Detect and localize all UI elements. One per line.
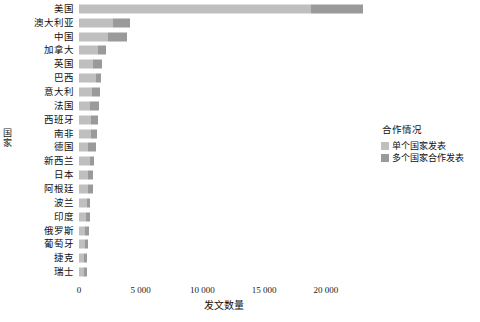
category-label: 法国 bbox=[54, 100, 74, 111]
category-label: 德国 bbox=[54, 142, 74, 153]
bar-segment-single bbox=[79, 32, 108, 41]
chart-row: 捷克 bbox=[79, 251, 369, 265]
category-label: 捷克 bbox=[54, 253, 74, 264]
bar-segment-single bbox=[79, 129, 91, 138]
y-axis-title: 国家 bbox=[0, 128, 14, 148]
bar-segment-multi bbox=[85, 240, 89, 249]
stacked-bar bbox=[79, 184, 93, 193]
chart-row: 阿根廷 bbox=[79, 182, 369, 196]
category-label: 南非 bbox=[54, 128, 74, 139]
legend-item[interactable]: 单个国家发表 bbox=[381, 140, 480, 151]
category-label: 葡萄牙 bbox=[44, 239, 74, 250]
category-label: 新西兰 bbox=[44, 156, 74, 167]
stacked-bar bbox=[79, 101, 99, 110]
bar-segment-multi bbox=[88, 143, 95, 152]
bar-segment-single bbox=[79, 143, 88, 152]
category-label: 英国 bbox=[54, 59, 74, 70]
x-axis: 05 00010 00015 00020 000 bbox=[79, 281, 369, 282]
chart-row: 澳大利亚 bbox=[79, 16, 369, 30]
bar-segment-multi bbox=[311, 4, 363, 13]
bar-segment-multi bbox=[88, 184, 93, 193]
bar-segment-multi bbox=[90, 157, 95, 166]
x-tick-label: 0 bbox=[77, 285, 82, 296]
bar-segment-multi bbox=[93, 60, 102, 69]
stacked-bar bbox=[79, 143, 96, 152]
bar-segment-single bbox=[79, 171, 88, 180]
stacked-bar bbox=[79, 157, 94, 166]
bar-segment-single bbox=[79, 184, 88, 193]
bar-segment-single bbox=[79, 60, 93, 69]
bar-segment-multi bbox=[91, 115, 99, 124]
chart-row: 英国 bbox=[79, 57, 369, 71]
chart-row: 印度 bbox=[79, 210, 369, 224]
stacked-bar bbox=[79, 46, 106, 55]
category-label: 中国 bbox=[54, 31, 74, 42]
stacked-bar bbox=[79, 254, 87, 263]
stacked-bar bbox=[79, 226, 89, 235]
bar-segment-multi bbox=[108, 32, 127, 41]
bar-segment-multi bbox=[88, 171, 93, 180]
category-label: 波兰 bbox=[54, 197, 74, 208]
chart-row: 巴西 bbox=[79, 71, 369, 85]
legend: 合作情况 单个国家发表多个国家合作发表 bbox=[381, 124, 480, 164]
bar-segment-multi bbox=[90, 101, 99, 110]
chart-row: 南非 bbox=[79, 127, 369, 141]
chart-row: 葡萄牙 bbox=[79, 237, 369, 251]
bar-segment-multi bbox=[84, 254, 87, 263]
publication-bar-chart: 国家 美国澳大利亚中国加拿大英国巴西意大利法国西班牙南非德国新西兰日本阿根廷波兰… bbox=[0, 0, 480, 322]
chart-row: 俄罗斯 bbox=[79, 224, 369, 238]
legend-swatch-icon bbox=[381, 154, 389, 162]
category-label: 瑞士 bbox=[54, 267, 74, 278]
chart-row: 法国 bbox=[79, 99, 369, 113]
stacked-bar bbox=[79, 32, 127, 41]
legend-title: 合作情况 bbox=[381, 124, 480, 136]
legend-items: 单个国家发表多个国家合作发表 bbox=[381, 140, 480, 163]
bar-segment-multi bbox=[113, 18, 130, 27]
category-label: 西班牙 bbox=[44, 114, 74, 125]
bar-segment-multi bbox=[92, 88, 100, 97]
category-label: 美国 bbox=[54, 3, 74, 14]
stacked-bar bbox=[79, 212, 90, 221]
stacked-bar bbox=[79, 268, 87, 277]
legend-swatch-icon bbox=[381, 142, 389, 150]
bar-segment-multi bbox=[84, 268, 87, 277]
bar-segment-multi bbox=[86, 212, 89, 221]
stacked-bar bbox=[79, 240, 88, 249]
category-label: 意大利 bbox=[44, 87, 74, 98]
legend-label: 单个国家发表 bbox=[392, 141, 446, 151]
chart-row: 日本 bbox=[79, 168, 369, 182]
category-label: 加拿大 bbox=[44, 45, 74, 56]
stacked-bar bbox=[79, 88, 100, 97]
bar-segment-single bbox=[79, 74, 96, 83]
bar-segment-multi bbox=[91, 129, 97, 138]
stacked-bar bbox=[79, 115, 98, 124]
chart-row: 意大利 bbox=[79, 85, 369, 99]
category-label: 阿根廷 bbox=[44, 183, 74, 194]
category-label: 印度 bbox=[54, 211, 74, 222]
stacked-bar bbox=[79, 198, 90, 207]
bar-segment-single bbox=[79, 157, 90, 166]
chart-row: 西班牙 bbox=[79, 113, 369, 127]
bar-segment-single bbox=[79, 18, 113, 27]
stacked-bar bbox=[79, 129, 97, 138]
bar-segment-single bbox=[79, 4, 311, 13]
stacked-bar bbox=[79, 18, 130, 27]
legend-item[interactable]: 多个国家合作发表 bbox=[381, 152, 480, 163]
stacked-bar bbox=[79, 4, 363, 13]
bar-segment-multi bbox=[96, 74, 100, 83]
x-tick-label: 5 000 bbox=[131, 285, 151, 296]
stacked-bar bbox=[79, 171, 93, 180]
category-label: 澳大利亚 bbox=[34, 17, 74, 28]
category-label: 巴西 bbox=[54, 73, 74, 84]
chart-row: 波兰 bbox=[79, 196, 369, 210]
bar-segment-single bbox=[79, 101, 90, 110]
plot-area: 美国澳大利亚中国加拿大英国巴西意大利法国西班牙南非德国新西兰日本阿根廷波兰印度俄… bbox=[79, 2, 369, 279]
bar-segment-single bbox=[79, 115, 91, 124]
bar-segment-multi bbox=[87, 198, 91, 207]
legend-label: 多个国家合作发表 bbox=[392, 153, 464, 163]
bar-segment-multi bbox=[85, 226, 89, 235]
chart-row: 美国 bbox=[79, 2, 369, 16]
chart-row: 德国 bbox=[79, 141, 369, 155]
bar-segment-multi bbox=[98, 46, 107, 55]
chart-row: 新西兰 bbox=[79, 154, 369, 168]
